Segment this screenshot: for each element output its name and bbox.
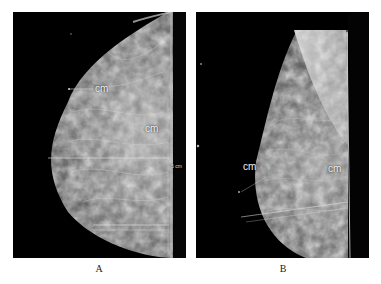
panel-caption-b: B <box>273 263 293 274</box>
measurement-label-b2: cm <box>328 164 341 174</box>
mammogram-panel-a: cm cm 5 cm <box>13 12 186 258</box>
scale-label-a: 5 cm <box>171 164 182 169</box>
measurement-label-a2: cm <box>145 124 158 134</box>
mammogram-image-a <box>13 12 186 258</box>
measurement-label-a1: cm <box>95 84 108 94</box>
mammogram-panel-b: cm cm <box>196 12 369 258</box>
measurement-label-b1: cm <box>243 162 256 172</box>
mammogram-image-b <box>196 12 369 258</box>
panel-caption-a: A <box>89 263 109 274</box>
